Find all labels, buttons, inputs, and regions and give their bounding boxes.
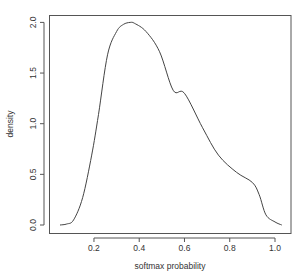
y-tick-label: 0.5	[28, 168, 38, 180]
plot-frame	[50, 16, 292, 234]
y-tick-label: 1.5	[28, 67, 38, 79]
y-axis-label: density	[5, 110, 15, 138]
x-tick-label: 0.4	[133, 243, 145, 253]
density-curve	[60, 22, 282, 225]
x-tick-label: 0.6	[179, 243, 191, 253]
x-tick-label: 0.2	[88, 243, 100, 253]
x-tick-label: 0.8	[224, 243, 236, 253]
y-tick-label: 0.0	[28, 219, 38, 231]
x-axis: 0.20.40.60.81.0	[88, 238, 281, 253]
y-tick-label: 1.0	[28, 118, 38, 130]
y-tick-label: 2.0	[28, 16, 38, 28]
y-axis: 0.00.51.01.52.0	[28, 16, 44, 231]
density-plot: 0.00.51.01.52.0 0.20.40.60.81.0 softmax …	[0, 0, 306, 279]
x-axis-label: softmax probability	[135, 261, 207, 271]
x-tick-label: 1.0	[269, 243, 281, 253]
